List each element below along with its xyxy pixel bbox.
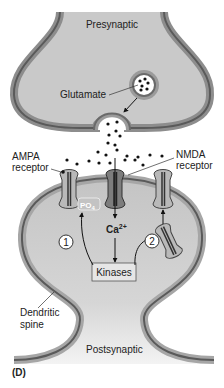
synaptic-vesicle [129, 70, 159, 100]
step-2-marker: 2 [145, 234, 159, 248]
phosphate-tag[interactable]: PO4 [78, 198, 100, 211]
step-1-number: 1 [63, 237, 69, 248]
kinases-box[interactable]: Kinases [92, 263, 136, 281]
nmda-label-line1: NMDA [176, 149, 206, 160]
postsynaptic-label: Postsynaptic [86, 344, 143, 355]
ampa-label-line2: receptor [12, 162, 49, 173]
calcium-superscript: 2+ [119, 223, 127, 230]
nmda-label-line2: receptor [176, 160, 213, 171]
glutamate-label: Glutamate [60, 89, 107, 100]
synapse-diagram: PO4 Ca2+ Kinases 1 2 Presynaptic Glutama… [0, 0, 224, 388]
ampa-receptor-inserted [153, 170, 173, 209]
kinases-label: Kinases [96, 267, 132, 278]
dendritic-label-line1: Dendritic [20, 307, 59, 318]
step-1-marker: 1 [59, 235, 73, 249]
calcium-text: Ca [106, 224, 119, 235]
panel-label: (D) [12, 367, 26, 378]
postsynaptic-spine [0, 178, 224, 388]
presynaptic-label: Presynaptic [86, 19, 138, 30]
step-2-number: 2 [149, 236, 155, 247]
ampa-label-line1: AMPA [12, 151, 40, 162]
ampa-receptor [59, 170, 79, 209]
phosphate-label: PO [80, 201, 92, 210]
dendritic-label-line2: spine [20, 319, 44, 330]
ampa-leader [51, 169, 61, 172]
dendritic-spine-leader [38, 292, 54, 308]
